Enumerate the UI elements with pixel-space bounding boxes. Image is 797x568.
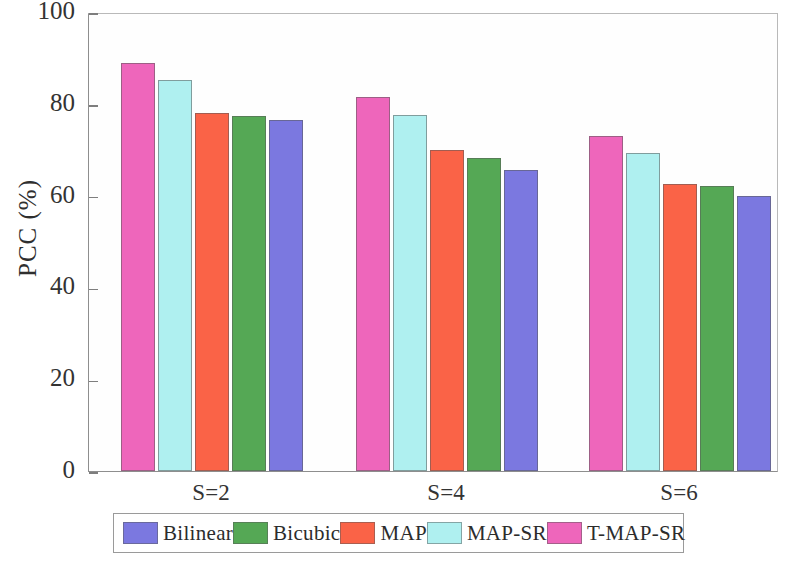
bar	[467, 158, 501, 471]
legend-color-swatch	[123, 522, 158, 544]
y-axis-tick-label: 100	[38, 0, 76, 25]
y-axis-label: PCC (%)	[14, 128, 42, 328]
bar	[430, 150, 464, 471]
legend-entry: MAP	[340, 521, 426, 546]
y-axis-tick-label: 80	[50, 89, 75, 117]
plot-area: 020406080100	[88, 13, 778, 472]
legend-entry: MAP-SR	[427, 521, 547, 546]
y-axis-tick-mark	[89, 105, 98, 106]
bar	[737, 196, 771, 471]
legend-label: T-MAP-SR	[587, 521, 686, 546]
y-axis-tick-label: 20	[50, 364, 75, 392]
bar	[626, 153, 660, 471]
bar	[589, 136, 623, 471]
bar	[195, 113, 229, 471]
x-axis-group-label: S=4	[427, 480, 464, 506]
legend-label: MAP	[380, 521, 426, 546]
y-axis-tick-label: 0	[63, 456, 76, 484]
chart-legend: BilinearBicubicMAPMAP-SRT-MAP-SR	[113, 513, 684, 553]
bar-chart-figure: PCC (%) 020406080100 S=2S=4S=6 BilinearB…	[0, 0, 797, 568]
y-axis-tick-label: 40	[50, 272, 75, 300]
bar	[663, 184, 697, 471]
legend-entry: T-MAP-SR	[547, 521, 686, 546]
y-axis-tick-label: 60	[50, 181, 75, 209]
x-axis-group-label: S=2	[192, 480, 229, 506]
x-axis-group-label: S=6	[660, 480, 697, 506]
y-axis-tick-mark	[89, 381, 98, 382]
y-axis-tick-mark	[89, 289, 98, 290]
legend-entry: Bilinear	[123, 521, 233, 546]
bar	[121, 63, 155, 471]
legend-color-swatch	[340, 522, 375, 544]
bar	[356, 97, 390, 471]
bar	[269, 120, 303, 471]
legend-label: Bicubic	[273, 521, 340, 546]
y-axis-tick-mark	[89, 13, 98, 14]
bar	[393, 115, 427, 471]
legend-label: MAP-SR	[467, 521, 547, 546]
y-axis-tick-mark	[89, 197, 98, 198]
bar	[158, 80, 192, 471]
legend-entry: Bicubic	[233, 521, 340, 546]
y-axis-tick-mark	[89, 472, 98, 473]
legend-label: Bilinear	[163, 521, 233, 546]
legend-color-swatch	[427, 522, 462, 544]
bar	[700, 186, 734, 471]
legend-color-swatch	[233, 522, 268, 544]
legend-color-swatch	[547, 522, 582, 544]
bar	[504, 170, 538, 471]
bar	[232, 116, 266, 471]
